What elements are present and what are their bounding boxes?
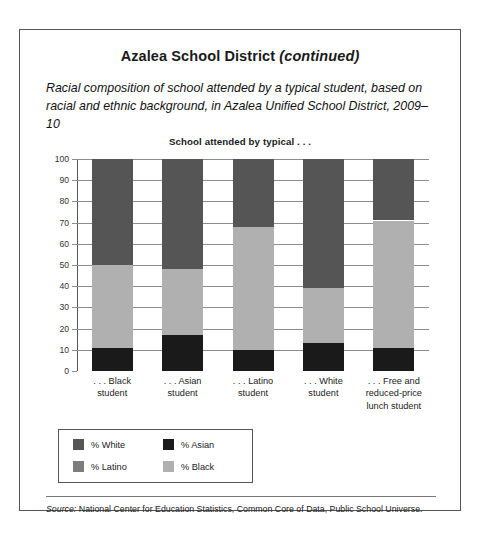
legend-swatch-icon bbox=[163, 439, 174, 450]
x-axis-label-line: lunch student bbox=[351, 400, 437, 412]
source-note: Source: National Center for Education St… bbox=[46, 504, 446, 514]
stacked-bar[interactable] bbox=[92, 159, 133, 371]
y-axis-tick-label: 100 bbox=[55, 154, 69, 164]
stacked-bar[interactable] bbox=[233, 159, 274, 371]
y-axis-tick-label: 90 bbox=[59, 175, 69, 185]
legend-label: % Asian bbox=[181, 440, 214, 450]
y-axis-tick-label: 80 bbox=[59, 196, 69, 206]
y-axis-tick-label: 30 bbox=[59, 302, 69, 312]
x-axis-label-line: reduced-price bbox=[351, 387, 437, 399]
bar-segment-black bbox=[92, 265, 133, 348]
bar-segment-asian bbox=[162, 335, 203, 371]
legend-label: % Latino bbox=[91, 462, 127, 472]
bar-segment-black bbox=[233, 227, 274, 350]
figure-card: Azalea School District (continued) Racia… bbox=[19, 29, 461, 511]
bar-column bbox=[233, 159, 274, 371]
bar-column bbox=[373, 159, 414, 371]
plot-canvas bbox=[77, 159, 429, 371]
y-axis-tick-label: 10 bbox=[59, 345, 69, 355]
bar-segment-asian bbox=[303, 343, 344, 371]
legend-item[interactable]: % Asian bbox=[163, 439, 214, 450]
legend-item[interactable]: % Black bbox=[163, 461, 214, 472]
y-axis-tick-label: 20 bbox=[59, 324, 69, 334]
stacked-bar[interactable] bbox=[373, 159, 414, 371]
bar-column bbox=[162, 159, 203, 371]
chart-legend: % White% Asian% Latino% Black bbox=[58, 429, 253, 483]
bar-segment-white bbox=[233, 159, 274, 227]
source-text: National Center for Education Statistics… bbox=[76, 504, 422, 514]
chart-plot-area: 0102030405060708090100 bbox=[47, 159, 435, 379]
chart-title: School attended by typical . . . bbox=[20, 136, 460, 147]
x-axis-label-line: . . . Free and bbox=[351, 375, 437, 387]
bar-segment-white bbox=[373, 159, 414, 220]
page-root: Azalea School District (continued) Racia… bbox=[0, 0, 482, 542]
legend-label: % White bbox=[91, 440, 125, 450]
bar-segment-asian bbox=[373, 348, 414, 371]
y-axis-tick-label: 50 bbox=[59, 260, 69, 270]
bar-segment-black bbox=[303, 288, 344, 343]
bar-segment-white bbox=[162, 159, 203, 269]
x-axis-label: . . . Free andreduced-pricelunch student bbox=[351, 375, 437, 412]
title-continued: (continued) bbox=[279, 48, 359, 64]
source-divider bbox=[46, 496, 436, 497]
bar-segment-white bbox=[303, 159, 344, 288]
y-axis-labels: 0102030405060708090100 bbox=[47, 159, 73, 371]
bar-segment-white bbox=[92, 159, 133, 265]
bar-group bbox=[77, 159, 429, 371]
y-axis-tick-label: 70 bbox=[59, 218, 69, 228]
stacked-bar[interactable] bbox=[303, 159, 344, 371]
legend-item[interactable]: % Latino bbox=[73, 461, 127, 472]
page-title: Azalea School District (continued) bbox=[20, 48, 460, 64]
bar-segment-asian bbox=[233, 350, 274, 371]
legend-item[interactable]: % White bbox=[73, 439, 125, 450]
legend-swatch-icon bbox=[73, 461, 84, 472]
bar-column bbox=[92, 159, 133, 371]
legend-label: % Black bbox=[181, 462, 214, 472]
legend-swatch-icon bbox=[73, 439, 84, 450]
title-main: Azalea School District bbox=[121, 48, 276, 64]
bar-segment-asian bbox=[92, 348, 133, 371]
y-axis-tick-mark bbox=[72, 371, 77, 372]
y-axis-tick-label: 40 bbox=[59, 281, 69, 291]
y-axis-tick-label: 60 bbox=[59, 239, 69, 249]
figure-subtitle: Racial composition of school attended by… bbox=[46, 80, 438, 134]
stacked-bar[interactable] bbox=[162, 159, 203, 371]
source-label: Source: bbox=[46, 504, 76, 514]
bar-column bbox=[303, 159, 344, 371]
bar-segment-black bbox=[373, 221, 414, 348]
x-axis-category-labels: . . . Blackstudent. . . Asianstudent. . … bbox=[77, 375, 429, 421]
legend-swatch-icon bbox=[163, 461, 174, 472]
bar-segment-black bbox=[162, 269, 203, 335]
